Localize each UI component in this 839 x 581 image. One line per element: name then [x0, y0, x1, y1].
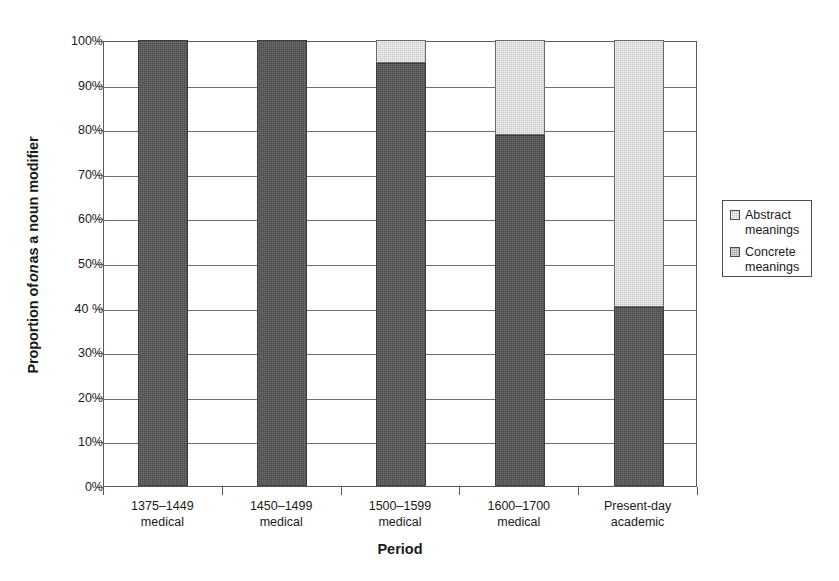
bar-group	[257, 42, 307, 486]
x-tick-label-line1: 1450–1499	[222, 498, 341, 514]
y-tick-mark-70	[96, 175, 103, 176]
legend-label-abstract: Abstractmeanings	[745, 208, 799, 238]
legend-item-concrete[interactable]: Concretemeanings	[730, 245, 811, 275]
x-tick-mark	[578, 487, 579, 495]
y-tick-mark-60	[96, 219, 103, 220]
bar-segment-abstract	[614, 40, 664, 307]
legend-item-abstract[interactable]: Abstractmeanings	[730, 208, 811, 238]
abstract-swatch-icon	[730, 210, 740, 220]
bar-segment-concrete	[376, 63, 426, 486]
x-tick-label-line1: Present-day	[578, 498, 697, 514]
x-tick-label: Present-dayacademic	[578, 498, 697, 530]
x-tick-mark	[459, 487, 460, 495]
x-tick-label-line2: medical	[222, 514, 341, 530]
y-tick-mark-10	[96, 442, 103, 443]
x-tick-label-line2: medical	[103, 514, 222, 530]
y-tick-mark-0	[96, 487, 103, 488]
bar-group	[376, 42, 426, 486]
x-tick-label-line2: medical	[341, 514, 460, 530]
y-tick-mark-100	[96, 41, 103, 42]
y-tick-mark-90	[96, 86, 103, 87]
bar-group	[138, 42, 188, 486]
bar-group	[614, 42, 664, 486]
y-tick-mark-30	[96, 353, 103, 354]
y-tick-mark-20	[96, 398, 103, 399]
stacked-bar-chart-figure: Proportion of on as a noun modifier 100%…	[0, 0, 839, 581]
plot-area	[103, 41, 697, 487]
x-tick-label-line1: 1500–1599	[341, 498, 460, 514]
x-tick-label: 1375–1449medical	[103, 498, 222, 530]
x-tick-label-line1: 1600–1700	[459, 498, 578, 514]
x-tick-label-line1: 1375–1449	[103, 498, 222, 514]
chart-legend: Abstractmeanings Concretemeanings	[722, 200, 812, 277]
bar-group	[495, 42, 545, 486]
x-tick-label-line2: academic	[578, 514, 697, 530]
x-tick-label: 1600–1700medical	[459, 498, 578, 530]
bar-segment-abstract	[495, 40, 545, 135]
x-tick-mark	[341, 487, 342, 495]
x-tick-mark	[222, 487, 223, 495]
x-axis-title: Period	[103, 541, 697, 557]
y-tick-mark-50	[96, 264, 103, 265]
x-tick-mark	[697, 487, 698, 495]
bar-segment-concrete	[257, 40, 307, 486]
bar-segment-concrete	[495, 135, 545, 486]
bar-segment-concrete	[614, 307, 664, 486]
bar-segment-abstract	[376, 40, 426, 63]
x-tick-mark	[103, 487, 104, 495]
x-tick-label: 1500–1599medical	[341, 498, 460, 530]
bar-segment-concrete	[138, 40, 188, 486]
y-tick-mark-80	[96, 130, 103, 131]
x-axis-labels: 1375–1449medical1450–1499medical1500–159…	[103, 498, 697, 538]
x-tick-label-line2: medical	[459, 514, 578, 530]
y-axis-ticks: 100% 90% 80% 70% 60% 50% 40 % 30% 20% 10…	[0, 41, 103, 487]
x-axis-ticks	[103, 487, 697, 495]
x-tick-label: 1450–1499medical	[222, 498, 341, 530]
legend-label-concrete: Concretemeanings	[745, 245, 799, 275]
y-tick-mark-40	[96, 309, 103, 310]
concrete-swatch-icon	[730, 247, 740, 257]
